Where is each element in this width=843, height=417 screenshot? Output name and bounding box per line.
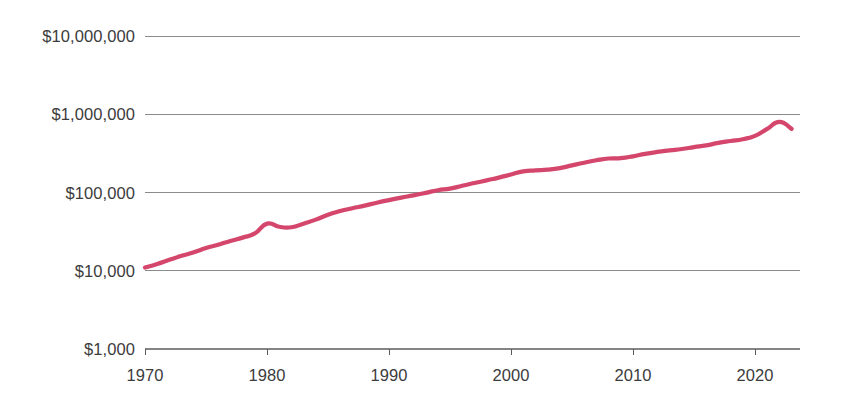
x-axis-ticks bbox=[145, 349, 755, 355]
x-axis-tick-label: 1980 bbox=[227, 367, 307, 384]
y-axis-tick-label: $1,000,000 bbox=[51, 106, 135, 123]
x-axis-tick-label: 1990 bbox=[349, 367, 429, 384]
data-series-line bbox=[145, 122, 792, 268]
series-line-value bbox=[145, 122, 792, 268]
y-axis-tick-label: $1,000 bbox=[84, 341, 135, 358]
chart-container: $10,000,000$1,000,000$100,000$10,000$1,0… bbox=[0, 0, 843, 417]
y-axis-tick-label: $10,000,000 bbox=[42, 28, 135, 45]
x-axis-tick-label: 2020 bbox=[715, 367, 795, 384]
x-axis-tick-label: 2010 bbox=[593, 367, 673, 384]
gridlines bbox=[145, 36, 800, 349]
y-axis-tick-label: $10,000 bbox=[75, 263, 135, 280]
x-axis-tick-label: 1970 bbox=[105, 367, 185, 384]
x-axis-tick-label: 2000 bbox=[471, 367, 551, 384]
y-axis-tick-label: $100,000 bbox=[65, 185, 135, 202]
